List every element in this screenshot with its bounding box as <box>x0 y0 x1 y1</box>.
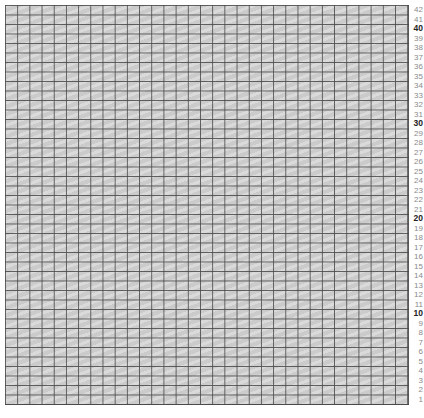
row-label: 42 <box>409 5 423 15</box>
row-label: 38 <box>409 43 423 53</box>
row-label: 35 <box>409 72 423 82</box>
row-label: 16 <box>409 252 423 262</box>
row-label: 25 <box>409 167 423 177</box>
row-label: 24 <box>409 176 423 186</box>
row-label: 10 <box>409 309 423 319</box>
row-label: 37 <box>409 53 423 63</box>
row-label: 32 <box>409 100 423 110</box>
row-label: 3 <box>409 376 423 386</box>
row-label: 28 <box>409 138 423 148</box>
row-label: 15 <box>409 262 423 272</box>
row-label: 1 <box>409 395 423 405</box>
row-label: 7 <box>409 338 423 348</box>
row-label: 18 <box>409 233 423 243</box>
row-label: 23 <box>409 186 423 196</box>
row-label: 36 <box>409 62 423 72</box>
row-label: 27 <box>409 148 423 158</box>
knitting-chart-grid <box>5 5 409 405</box>
row-label: 39 <box>409 34 423 44</box>
row-label: 19 <box>409 224 423 234</box>
row-label: 8 <box>409 328 423 338</box>
row-label: 14 <box>409 271 423 281</box>
row-label: 9 <box>409 319 423 329</box>
row-label: 33 <box>409 91 423 101</box>
row-label: 20 <box>409 214 423 224</box>
row-label: 6 <box>409 347 423 357</box>
row-label: 5 <box>409 357 423 367</box>
row-label: 4 <box>409 366 423 376</box>
row-number-labels: 4241403938373635343332313029282726252423… <box>409 5 423 404</box>
row-label: 26 <box>409 157 423 167</box>
row-label: 30 <box>409 119 423 129</box>
row-label: 17 <box>409 243 423 253</box>
row-label: 22 <box>409 195 423 205</box>
row-label: 40 <box>409 24 423 34</box>
row-label: 29 <box>409 129 423 139</box>
row-label: 12 <box>409 290 423 300</box>
row-label: 34 <box>409 81 423 91</box>
row-label: 2 <box>409 385 423 395</box>
row-label: 13 <box>409 281 423 291</box>
